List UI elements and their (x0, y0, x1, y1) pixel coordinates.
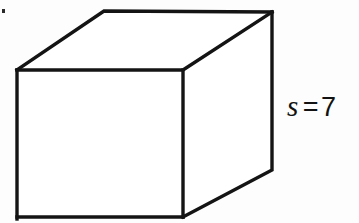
side-length-value: 7 (321, 92, 337, 122)
cube-figure: s=7 (0, 0, 359, 223)
side-length-label: s=7 (287, 92, 337, 121)
side-length-variable: s (287, 90, 299, 122)
cube-front-face (17, 70, 183, 217)
speck-artifact (2, 9, 5, 13)
equals-sign: = (303, 92, 319, 122)
